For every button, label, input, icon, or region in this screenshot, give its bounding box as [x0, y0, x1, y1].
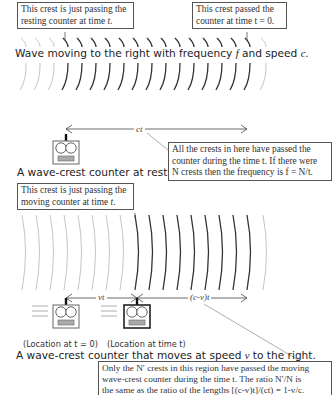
wave-crest [50, 215, 54, 290]
wave-crest-lower [132, 63, 138, 90]
wave-crest-lower [202, 63, 208, 90]
location-end-label: (Location at time t) [107, 339, 186, 349]
callout-resting-crest: This crest is just passing the resting c… [17, 2, 134, 29]
wave-crest [191, 215, 195, 290]
wave-crest-upper [245, 38, 250, 47]
wave-crest-upper [77, 38, 82, 47]
wave-crest [78, 215, 82, 290]
wave-crest-upper [231, 38, 236, 47]
wave-crest-upper [261, 38, 266, 47]
wave-crest [163, 215, 167, 290]
callout-first-crest: This crest passed the counter at time t … [192, 2, 287, 29]
wave-crest-lower [76, 63, 82, 90]
callout-moving-crest: This crest is just passing the moving co… [17, 183, 134, 210]
wave-crest-lower [188, 63, 194, 90]
wave-crest-lower [104, 63, 110, 90]
wave-crest [36, 215, 40, 290]
counter-dial-icon [127, 307, 137, 317]
wave-crest [233, 215, 237, 290]
wave-crest [135, 215, 139, 290]
dimension-vt-label: vt [96, 292, 107, 302]
wave-crest-lower [260, 63, 266, 90]
location-start-label: (Location at t = 0) [23, 339, 98, 349]
counter-dial-icon [56, 307, 66, 317]
wave-crest-upper [161, 38, 166, 47]
counter-display-icon [58, 320, 74, 325]
leader-line-explain [147, 133, 168, 150]
counter-at-rest-caption: A wave-crest counter at rest. [17, 166, 171, 178]
counter-dial-icon [56, 143, 66, 153]
moving-counter-caption: A wave-crest counter that moves at speed… [16, 349, 316, 361]
wave-crest [92, 215, 96, 290]
wave-crest-lower [216, 63, 222, 90]
wave-crest-lower [118, 63, 124, 90]
wave-crest [106, 215, 110, 290]
wave-crest-upper [133, 38, 138, 47]
wave-crest-upper [49, 38, 54, 47]
counter-display-icon [129, 320, 145, 325]
callout-frequency-explain: All the crests in here have passed the c… [168, 142, 332, 181]
wave-crest-lower [160, 63, 166, 90]
callout-ratio-explain: Only the N′ crests in this region have p… [98, 361, 332, 395]
wave-crest-upper [189, 38, 194, 47]
wave-crest-lower [20, 63, 26, 90]
counter-display-icon [58, 156, 74, 161]
wave-crest [219, 215, 223, 290]
wave-crest [149, 215, 153, 290]
dimension-c-minus-v-t-label: (c-v)t [188, 292, 211, 302]
wave-crest [64, 215, 68, 290]
wave-crest-upper [91, 38, 96, 47]
wave-crest [263, 215, 267, 290]
wave-crest-upper [203, 38, 208, 47]
wave-crest-lower [62, 63, 68, 90]
doppler-diagram: This crest is just passing the resting c… [0, 0, 332, 395]
wave-crest [205, 215, 209, 290]
wave-crest-lower [34, 63, 40, 90]
wave-crest-lower [48, 63, 54, 90]
wave-crest-upper [35, 38, 40, 47]
wave-crest-upper [147, 38, 152, 47]
wave-crest-upper [105, 38, 110, 47]
wave-crest [22, 215, 26, 290]
wave-crest-upper [21, 38, 26, 47]
wave-crest-upper [63, 38, 68, 47]
counter-dial-icon [66, 307, 76, 317]
wave-caption: Wave moving to the right with frequency … [15, 47, 309, 59]
wave-crest-lower [174, 63, 180, 90]
wave-crest-upper [175, 38, 180, 47]
wave-crest-upper [119, 38, 124, 47]
wave-crest [177, 215, 181, 290]
wave-crest-lower [90, 63, 96, 90]
wave-crest [120, 215, 124, 290]
dimension-ct-label: ct [134, 124, 145, 134]
wave-crest-upper [217, 38, 222, 47]
wave-crest-lower [244, 63, 250, 90]
wave-crest-lower [230, 63, 236, 90]
wave-crest [247, 215, 251, 290]
wave-crest-lower [146, 63, 152, 90]
counter-dial-icon [66, 143, 76, 153]
counter-dial-icon [137, 307, 147, 317]
